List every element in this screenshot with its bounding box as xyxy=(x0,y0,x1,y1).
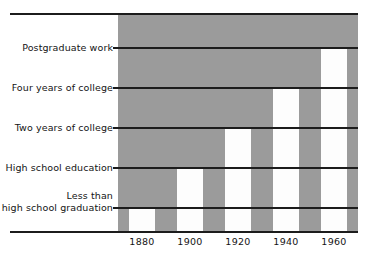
gridline-high-school-education xyxy=(113,167,358,169)
x-axis-tick-1900: 1900 xyxy=(177,236,202,247)
bar-1940 xyxy=(273,88,299,231)
bar-1960 xyxy=(321,48,347,231)
x-axis-tick-1880: 1880 xyxy=(129,236,154,247)
gridline-less-than-high-school xyxy=(113,207,358,209)
bar-1920 xyxy=(225,128,251,231)
y-axis-label-postgraduate-work: Postgraduate work xyxy=(22,42,113,54)
x-axis-tick-1920: 1920 xyxy=(225,236,250,247)
x-axis-tick-1960: 1960 xyxy=(321,236,346,247)
y-axis-label-two-years-of-college: Two years of college xyxy=(15,122,113,134)
gridline-two-years-of-college xyxy=(113,127,358,129)
x-axis-tick-1940: 1940 xyxy=(273,236,298,247)
gridline-four-years-of-college xyxy=(113,87,358,89)
bar-1880 xyxy=(129,208,155,231)
gridline-postgraduate-work xyxy=(113,47,358,49)
bar-chart-figure: Less than high school graduationHigh sch… xyxy=(0,0,365,261)
y-axis-label-less-than-high-school: Less than high school graduation xyxy=(2,190,113,214)
y-axis-label-four-years-of-college: Four years of college xyxy=(12,82,113,94)
x-axis-rule xyxy=(10,231,358,233)
bar-1900 xyxy=(177,168,203,231)
y-axis-label-high-school-education: High school education xyxy=(5,162,113,174)
